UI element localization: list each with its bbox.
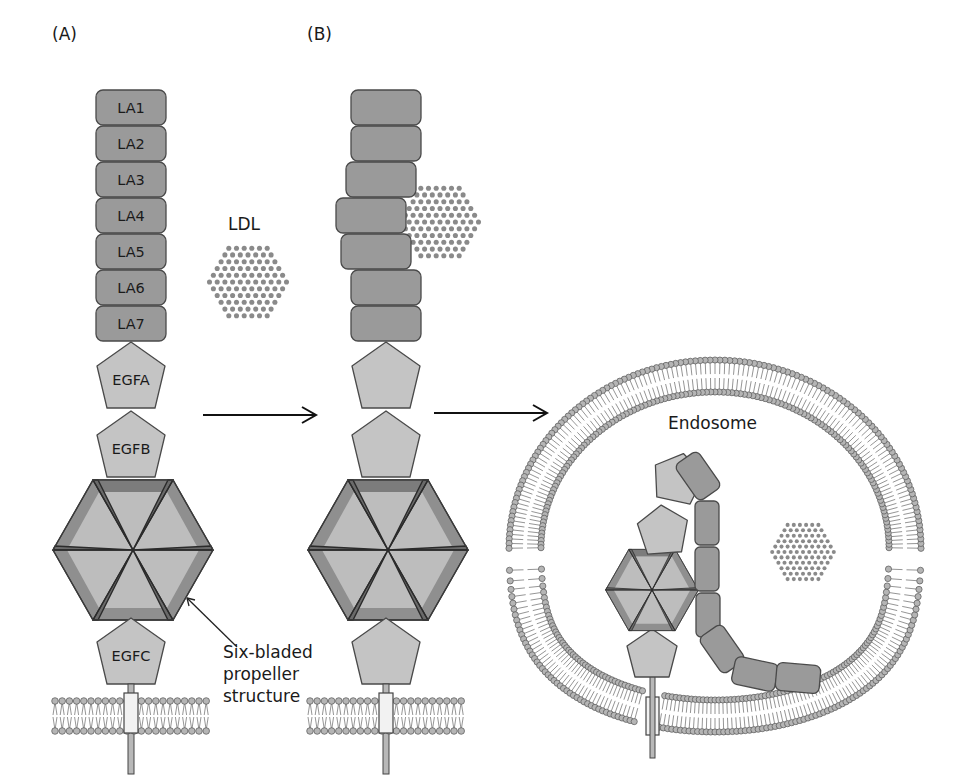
la-domain xyxy=(336,198,406,233)
la-domain xyxy=(351,306,421,341)
ldl-receptor-diagram: (A) (B) LA1 LA2 LA3 LA4 LA5 LA6 LA7 EGFA… xyxy=(0,0,976,777)
la-domain xyxy=(351,90,421,125)
panel-label-a: (A) xyxy=(52,24,77,44)
arrow-a-to-b xyxy=(203,407,316,423)
svg-text:LA6: LA6 xyxy=(117,280,145,296)
egf-domain: EGFC xyxy=(97,618,165,684)
svg-text:LA2: LA2 xyxy=(117,136,145,152)
svg-text:EGFA: EGFA xyxy=(112,372,149,388)
svg-text:LA4: LA4 xyxy=(117,208,145,224)
la-domain xyxy=(351,270,421,305)
svg-text:EGFB: EGFB xyxy=(112,441,151,457)
propeller-annotation: structure xyxy=(223,686,300,706)
panel-a-receptor: LA1 LA2 LA3 LA4 LA5 LA6 LA7 EGFA EGFB EG… xyxy=(52,90,213,774)
endosome-label: Endosome xyxy=(668,413,757,433)
endosome: Endosome xyxy=(506,357,924,758)
egf-domain xyxy=(352,342,420,408)
egf-domain xyxy=(352,411,420,477)
svg-text:LA3: LA3 xyxy=(117,172,145,188)
propeller-annotation: propeller xyxy=(223,664,299,684)
ldl-particle xyxy=(770,523,836,581)
svg-text:LA5: LA5 xyxy=(117,244,145,260)
la-domain: LA6 xyxy=(96,270,166,305)
egf-domain xyxy=(352,618,420,684)
la-domain xyxy=(351,126,421,161)
panel-label-b: (B) xyxy=(307,24,332,44)
la-domain: LA5 xyxy=(96,234,166,269)
ldl-particle xyxy=(207,246,289,319)
la-domain: LA7 xyxy=(96,306,166,341)
la-domain: LA1 xyxy=(96,90,166,125)
svg-text:LA1: LA1 xyxy=(117,100,145,116)
la-domain xyxy=(346,162,416,197)
svg-text:EGFC: EGFC xyxy=(112,648,151,664)
propeller-hexagon xyxy=(308,480,468,620)
arrow-b-to-endosome xyxy=(434,405,547,421)
la-domain: LA3 xyxy=(96,162,166,197)
egf-domain: EGFA xyxy=(97,342,165,408)
egf-domain: EGFB xyxy=(97,411,165,477)
la-domain xyxy=(341,234,411,269)
ldl-label: LDL xyxy=(228,214,261,234)
panel-b-receptor xyxy=(307,90,481,774)
la-domain: LA4 xyxy=(96,198,166,233)
svg-text:LA7: LA7 xyxy=(117,316,145,332)
la-domain: LA2 xyxy=(96,126,166,161)
propeller-annotation: Six-bladed xyxy=(223,642,313,662)
